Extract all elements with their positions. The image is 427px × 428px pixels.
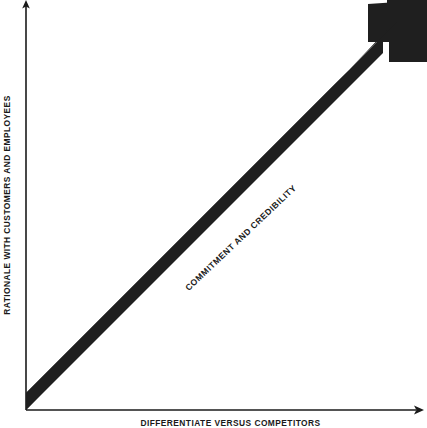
x-axis-label-text: DIFFERENTIATE VERSUS COMPETITORS (106, 419, 320, 427)
growth-arrow-shaft (26, 36, 383, 410)
horizontal-axis (26, 406, 424, 415)
vertical-axis (22, 0, 30, 410)
x-axis-label: DIFFERENTIATE VERSUS COMPETITORS (0, 419, 427, 427)
growth-arrow (26, 0, 427, 410)
diagram-graphics (0, 0, 427, 428)
y-axis-label-text: RATIONALE WITH CUSTOMERS AND EMPLOYEES (3, 95, 11, 314)
y-axis-label: RATIONALE WITH CUSTOMERS AND EMPLOYEES (0, 0, 14, 428)
diagram-canvas: RATIONALE WITH CUSTOMERS AND EMPLOYEES D… (0, 0, 427, 428)
